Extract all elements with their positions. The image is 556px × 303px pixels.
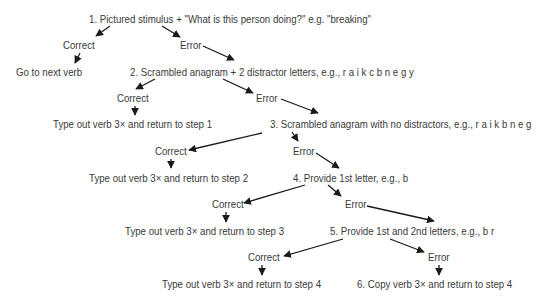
- error-label-1: Error: [180, 39, 202, 52]
- arrow-error1-step2: [203, 46, 234, 60]
- arrow-step3-error: [292, 132, 298, 141]
- arrow-error3-step4: [316, 153, 339, 168]
- arrow-step4-correct: [244, 185, 305, 203]
- return-step-2-node: Type out verb 3× and return to step 2: [89, 172, 248, 185]
- arrow-step3-correct: [189, 133, 262, 150]
- correct-label-1: Correct: [63, 39, 95, 52]
- error-label-3: Error: [293, 145, 315, 158]
- correct-label-3: Correct: [155, 145, 187, 158]
- arrow-step4-error: [328, 185, 341, 196]
- correct-label-4: Correct: [212, 198, 244, 211]
- arrow-step5-error: [390, 239, 424, 252]
- next-verb-node: Go to next verb: [16, 66, 82, 79]
- return-step-1-node: Type out verb 3× and return to step 1: [53, 118, 212, 131]
- arrow-step2-correct: [136, 79, 155, 89]
- step-2-node: 2. Scrambled anagram + 2 distractor lett…: [130, 66, 414, 79]
- arrow-step5-correct: [284, 239, 343, 256]
- error-label-4: Error: [345, 198, 367, 211]
- return-step-3-node: Type out verb 3× and return to step 3: [125, 225, 284, 238]
- return-step-4-node: Type out verb 3× and return to step 4: [162, 278, 321, 291]
- arrow-correct1-nextverb: [75, 53, 80, 63]
- step-5-node: 5. Provide 1st and 2nd letters, e.g., b …: [330, 225, 494, 238]
- correct-label-2: Correct: [117, 92, 149, 105]
- error-label-5: Error: [428, 251, 450, 264]
- correct-label-5: Correct: [248, 251, 280, 264]
- step-6-node: 6. Copy verb 3× and return to step 4: [357, 278, 512, 291]
- arrow-error2-step3: [281, 99, 318, 113]
- flowchart-canvas: 1. Pictured stimulus + "What is this per…: [0, 0, 556, 303]
- arrow-step1-correct: [96, 26, 110, 36]
- step-1-node: 1. Pictured stimulus + "What is this per…: [89, 13, 371, 26]
- error-label-2: Error: [256, 92, 278, 105]
- arrow-step2-error: [223, 79, 253, 93]
- arrow-step1-error: [162, 26, 180, 37]
- arrow-error4-step5: [367, 206, 434, 221]
- step-3-node: 3. Scrambled anagram with no distractors…: [270, 118, 531, 131]
- step-4-node: 4. Provide 1st letter, e.g., b: [293, 172, 408, 185]
